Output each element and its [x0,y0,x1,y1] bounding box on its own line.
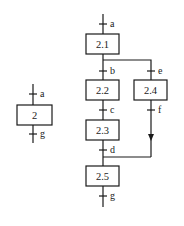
transition-a-label: a [110,18,115,29]
step-2-5-label: 2.5 [96,171,109,182]
step-2-label: 2 [32,110,37,121]
step-2-4-label: 2.4 [144,85,158,96]
transition-d-label: d [110,144,115,155]
step-2-2-label: 2.2 [96,85,109,96]
arrow-down-icon [148,134,154,141]
transition-e-label: e [158,65,163,76]
left-transition-g-label: g [40,128,45,139]
transition-f-label: f [158,104,162,115]
transition-b-label: b [110,65,115,76]
grafcet-diagram: a 2 g a 2.1 b e 2.2 2.4 c [0,0,184,226]
left-macro-step: a 2 g [17,84,52,143]
transition-c-label: c [110,104,115,115]
right-expansion: a 2.1 b e 2.2 2.4 c f 2.3 d [86,14,167,207]
step-2-3-label: 2.3 [96,125,109,136]
left-transition-a-label: a [40,88,45,99]
transition-g-label: g [110,190,115,201]
step-2-1-label: 2.1 [96,39,109,50]
